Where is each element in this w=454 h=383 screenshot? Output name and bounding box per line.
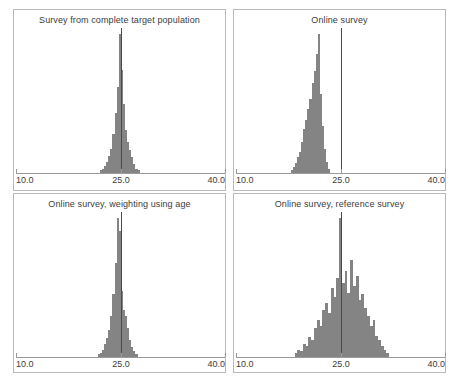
x-axis-tick-label: 40.0 <box>427 175 445 186</box>
x-axis-tick <box>445 353 446 357</box>
panel-online-survey-reference-survey: Online survey, reference survey10.025.04… <box>233 193 446 373</box>
x-axis-line <box>16 173 225 174</box>
x-axis-tick-label: 25.0 <box>112 175 130 186</box>
panel-title: Survey from complete target population <box>14 14 225 26</box>
x-axis-tick-label: 25.0 <box>332 359 350 370</box>
panel-online-survey-weighting-using-age: Online survey, weighting using age10.025… <box>13 193 226 373</box>
reference-line <box>341 28 342 173</box>
reference-line <box>121 212 122 357</box>
panel-survey-complete-target-population: Survey from complete target population10… <box>13 9 226 191</box>
x-axis-tick-label: 40.0 <box>207 359 225 370</box>
x-axis-tick <box>341 169 342 173</box>
panel-title: Online survey <box>234 14 445 26</box>
x-axis-tick <box>225 169 226 173</box>
x-axis-tick <box>16 169 17 173</box>
histogram-bars <box>234 214 445 357</box>
histogram-bars <box>234 30 445 173</box>
x-axis-tick-label: 40.0 <box>427 359 445 370</box>
x-axis-tick-label: 25.0 <box>112 359 130 370</box>
x-axis-tick <box>16 353 17 357</box>
panel-title: Online survey, weighting using age <box>14 198 225 210</box>
panel-title: Online survey, reference survey <box>234 198 445 210</box>
plot-area <box>234 30 445 173</box>
x-axis-tick-label: 10.0 <box>236 359 254 370</box>
x-axis-tick-label: 10.0 <box>236 175 254 186</box>
x-axis-tick <box>121 353 122 357</box>
x-axis-line <box>16 357 225 358</box>
x-axis-tick-label: 25.0 <box>332 175 350 186</box>
x-axis-tick <box>341 353 342 357</box>
plot-area <box>14 214 225 357</box>
x-axis-line <box>236 357 445 358</box>
x-axis-tick-label: 10.0 <box>16 175 34 186</box>
x-axis-tick <box>445 169 446 173</box>
reference-line <box>341 212 342 357</box>
plot-area <box>234 214 445 357</box>
reference-line <box>121 28 122 173</box>
x-axis-tick-label: 40.0 <box>207 175 225 186</box>
x-axis-tick-label: 10.0 <box>16 359 34 370</box>
x-axis-tick <box>236 169 237 173</box>
histogram-bars <box>14 30 225 173</box>
x-axis-tick <box>121 169 122 173</box>
x-axis-line <box>236 173 445 174</box>
histogram-bars <box>14 214 225 357</box>
histogram-figure: Survey from complete target population10… <box>0 0 454 383</box>
x-axis-tick <box>225 353 226 357</box>
plot-area <box>14 30 225 173</box>
panel-online-survey: Online survey10.025.040.0 <box>233 9 446 191</box>
x-axis-tick <box>236 353 237 357</box>
